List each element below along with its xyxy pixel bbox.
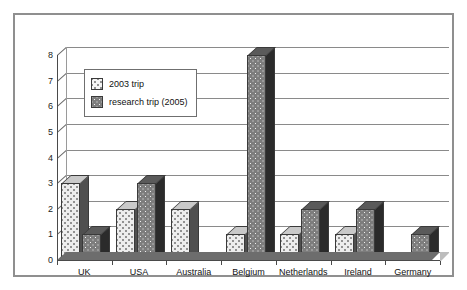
y-axis-tick-labels: 876543210 <box>29 15 53 275</box>
bar-side-face <box>375 201 384 260</box>
x-label-netherlands: Netherlands <box>276 267 331 277</box>
y-axis-line <box>57 55 58 261</box>
x-label-ireland: Ireland <box>331 267 386 277</box>
x-tick-1 <box>112 261 113 265</box>
x-label-germany: Germany <box>385 267 440 277</box>
bar-uk-2003 <box>61 183 80 260</box>
x-label-usa: USA <box>112 267 167 277</box>
y-tick-label-0: 0 <box>35 256 53 265</box>
x-label-uk: UK <box>57 267 112 277</box>
y-tick-label-1: 1 <box>35 230 53 239</box>
bar-chart: 876543210 UKUSAAustraliaBelgiumNetherlan… <box>15 15 452 275</box>
legend-item-2003: 2003 trip <box>91 75 190 93</box>
chart-floor-right-cap <box>440 252 449 261</box>
x-label-belgium: Belgium <box>221 267 276 277</box>
bar-side-face <box>156 175 165 260</box>
y-tick-label-3: 3 <box>35 179 53 188</box>
bar-side-face <box>266 47 275 260</box>
bar-side-face <box>320 201 329 260</box>
legend-item-2005: research trip (2005) <box>91 93 190 111</box>
y-tick-label-6: 6 <box>35 102 53 111</box>
y-tick-label-5: 5 <box>35 128 53 137</box>
y-tick-label-8: 8 <box>35 51 53 60</box>
legend-swatch-2003-icon <box>91 78 103 90</box>
x-tick-0 <box>57 261 58 265</box>
x-tick-4 <box>276 261 277 265</box>
x-label-australia: Australia <box>166 267 221 277</box>
y-tick-label-4: 4 <box>35 154 53 163</box>
bar-front-face <box>61 183 80 260</box>
chart-frame: 876543210 UKUSAAustraliaBelgiumNetherlan… <box>13 13 454 277</box>
y-tick-label-2: 2 <box>35 205 53 214</box>
legend-swatch-2005-icon <box>91 96 103 108</box>
bar-belgium-2005 <box>247 55 266 260</box>
x-tick-7 <box>440 261 441 265</box>
bar-front-face <box>137 183 156 260</box>
legend-label-2005: research trip (2005) <box>109 97 188 107</box>
x-axis-line <box>57 260 440 261</box>
x-tick-6 <box>385 261 386 265</box>
bar-side-face <box>190 201 199 260</box>
chart-legend: 2003 trip research trip (2005) <box>84 69 197 117</box>
x-tick-3 <box>221 261 222 265</box>
y-tick-label-7: 7 <box>35 77 53 86</box>
x-tick-5 <box>331 261 332 265</box>
bar-front-face <box>247 55 266 260</box>
x-tick-2 <box>166 261 167 265</box>
bar-usa-2005 <box>137 183 156 260</box>
legend-label-2003: 2003 trip <box>109 79 144 89</box>
